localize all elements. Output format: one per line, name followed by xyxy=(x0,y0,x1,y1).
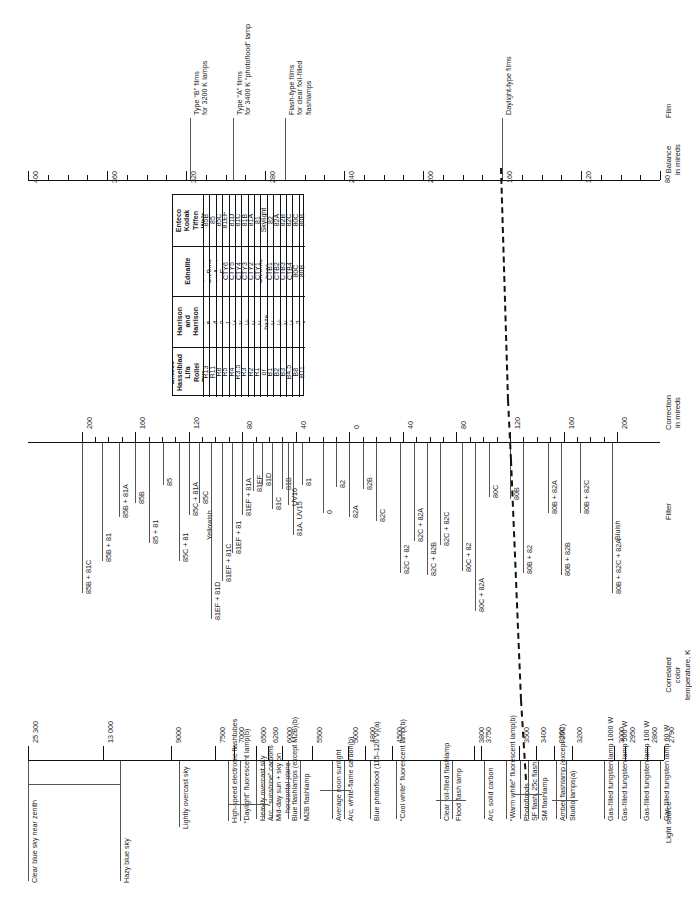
column-header-balance: Balance in mireds xyxy=(664,144,683,175)
correction-tick xyxy=(577,437,578,442)
film-leader-line xyxy=(190,118,191,180)
temperature-tick xyxy=(103,746,104,760)
balance-tick xyxy=(443,175,444,180)
correction-tick xyxy=(282,437,283,442)
column-header-color-temperature: Correlated color temperature, K xyxy=(664,650,692,700)
filter-leader-line xyxy=(580,443,581,513)
temperature-tick-label: 5500 xyxy=(315,727,324,743)
balance-tick-label: 240 xyxy=(347,171,356,183)
filter-leader-line xyxy=(376,443,377,521)
balance-tick xyxy=(621,175,622,180)
light-source-label: Flood flash lamp xyxy=(455,768,464,821)
bracket-photofloods xyxy=(514,794,542,795)
correction-tick xyxy=(376,437,377,442)
correction-tick xyxy=(122,437,123,442)
bracket-noon-sun xyxy=(320,790,350,791)
light-source-label: Clear foil-filled flashlamp xyxy=(443,743,452,821)
light-source-leader-line xyxy=(484,761,485,819)
filter-table-header-text: Harrison and Harrison xyxy=(176,307,201,336)
filter-label: 85 + 81 xyxy=(152,520,160,544)
filter-label: 80B + 82A xyxy=(551,480,559,514)
light-source-leader-line xyxy=(506,761,507,819)
correction-tick xyxy=(430,437,431,442)
balance-tick xyxy=(463,175,464,180)
light-source-leader-line xyxy=(566,761,567,819)
correction-tick xyxy=(523,437,524,442)
light-source-label: Arc, white-flame carbon(b) xyxy=(347,737,356,821)
temperature-tick-label: 3400 xyxy=(539,727,548,743)
balance-tick xyxy=(423,171,424,180)
column-header-film: Film xyxy=(664,104,673,118)
light-source-leader-line xyxy=(452,761,453,819)
filter-label: 81A, UV15 xyxy=(296,501,304,536)
light-source-leader-line xyxy=(264,761,265,819)
light-source-leader-line xyxy=(396,761,397,819)
balance-tick xyxy=(384,175,385,180)
balance-tick xyxy=(660,171,661,180)
correction-tick xyxy=(296,432,297,442)
correction-tick xyxy=(390,437,391,442)
balance-tick-label: 400 xyxy=(31,171,40,183)
filter-label: 80B + 82B xyxy=(564,542,572,576)
filter-label: 81C xyxy=(275,497,283,510)
filter-leader-line xyxy=(427,443,428,575)
balance-tick xyxy=(147,175,148,180)
correction-tick-label: 120 xyxy=(192,417,201,429)
balance-tick xyxy=(305,175,306,180)
balance-tick xyxy=(482,175,483,180)
filter-leader-line xyxy=(288,443,289,505)
correction-tick xyxy=(416,437,417,442)
filter-leader-line xyxy=(135,443,136,503)
bracket-amber xyxy=(552,800,578,801)
correction-tick xyxy=(202,437,203,442)
correction-tick xyxy=(456,432,457,442)
correction-tick-label: 200 xyxy=(620,417,629,429)
film-leader-line xyxy=(233,118,234,180)
filter-leader-line xyxy=(119,443,120,517)
filter-leader-line xyxy=(222,443,223,581)
balance-tick-label: 360 xyxy=(110,171,119,183)
temperature-tick-label: 25 300 xyxy=(31,721,40,743)
temperature-tick xyxy=(519,746,520,760)
correction-tick-label: 200 xyxy=(85,417,94,429)
light-source-leader-line xyxy=(228,761,229,821)
correction-tick-label: 80 xyxy=(459,421,468,429)
filter-label: 80B xyxy=(513,487,521,500)
zone-label-yellowish: Yellowish xyxy=(206,510,214,540)
light-source-leader-line xyxy=(440,761,441,819)
correction-tick xyxy=(537,437,538,442)
light-source-leader-line xyxy=(604,761,605,819)
light-source-leader-line xyxy=(179,761,180,827)
temperature-tick xyxy=(312,746,313,760)
temperature-tick xyxy=(215,746,216,760)
correction-tick xyxy=(269,437,270,442)
filter-table: Accura Enteco Kodak Tiffen WalzEdnaliteH… xyxy=(172,194,304,396)
correction-axis-line xyxy=(28,442,660,443)
filter-label: 81 xyxy=(305,478,313,486)
light-source-label: Clear blue sky near zenith xyxy=(31,800,40,883)
light-source-label: Blue flashlamps (except M2B)(b) xyxy=(291,717,300,821)
correction-tick xyxy=(470,437,471,442)
filter-table-header-text: Enteco Hasselblad Lifa Rollei Tiffen xyxy=(173,354,203,391)
filter-table-cell-text: 80B xyxy=(299,214,305,226)
light-source-label: “Warm white” fluorescent lamp(b) xyxy=(509,715,518,821)
filter-table-cell-text: 80B xyxy=(299,265,305,277)
correction-tick xyxy=(95,437,96,442)
filter-label: 80B + 82C xyxy=(583,480,591,514)
filter-leader-line xyxy=(612,443,613,593)
filter-label: 80C xyxy=(492,485,500,498)
temperature-tick-label: 13 000 xyxy=(106,721,115,743)
light-source-label: Gas-filled tungsten lamp 1000 W xyxy=(607,717,616,821)
correction-tick-label: 80 xyxy=(245,421,254,429)
filter-label: 82C + 82A xyxy=(417,508,425,542)
light-source-label: Gas-filled tungsten lamp 100 W xyxy=(643,721,652,821)
filter-label: 82B xyxy=(366,477,374,490)
bracket-flash-group xyxy=(228,804,268,805)
bracket-blue-sky xyxy=(28,784,120,785)
example-dash-line xyxy=(507,400,512,460)
correction-tick xyxy=(590,437,591,442)
filter-label: 85B xyxy=(138,491,146,504)
correction-tick xyxy=(497,437,498,442)
filter-leader-line xyxy=(363,443,364,489)
correction-tick-label: 40 xyxy=(406,421,415,429)
